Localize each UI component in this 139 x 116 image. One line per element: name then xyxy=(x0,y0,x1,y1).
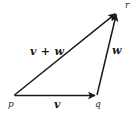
vector-v-label: v xyxy=(54,99,61,110)
point-label-p: p xyxy=(8,100,14,109)
vector-v-plus-w-label: v + w xyxy=(30,46,64,57)
vector-w-label: w xyxy=(112,45,122,56)
vector-addition-diagram: v + w w v p q r xyxy=(0,0,139,116)
point-label-r: r xyxy=(125,1,129,10)
point-label-q: q xyxy=(95,100,101,109)
diagram-canvas xyxy=(0,0,139,116)
